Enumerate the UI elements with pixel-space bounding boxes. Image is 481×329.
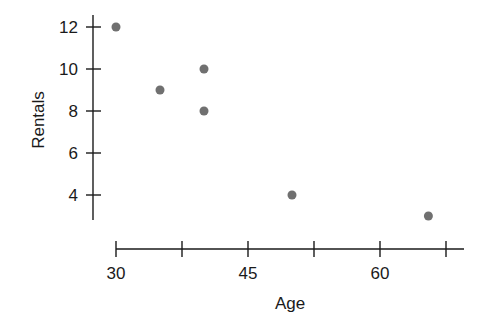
x-axis-title: Age — [275, 294, 305, 313]
x-axis: 304560 — [107, 241, 464, 283]
y-tick-label: 6 — [69, 144, 78, 163]
data-point — [156, 86, 165, 95]
data-point — [288, 191, 297, 200]
y-axis-title: Rentals — [29, 91, 48, 149]
x-tick-label: 30 — [107, 264, 126, 283]
x-tick-label: 60 — [371, 264, 390, 283]
data-point — [424, 212, 433, 221]
y-tick-label: 8 — [69, 102, 78, 121]
y-tick-label: 10 — [59, 60, 78, 79]
y-tick-label: 4 — [69, 186, 78, 205]
y-axis: 4681012 — [59, 15, 101, 220]
y-tick-label: 12 — [59, 18, 78, 37]
scatter-chart: 4681012 304560 Age Rentals — [0, 0, 481, 329]
data-point — [200, 107, 209, 116]
data-points — [112, 23, 433, 221]
data-point — [200, 65, 209, 74]
data-point — [112, 23, 121, 32]
x-tick-label: 45 — [239, 264, 258, 283]
